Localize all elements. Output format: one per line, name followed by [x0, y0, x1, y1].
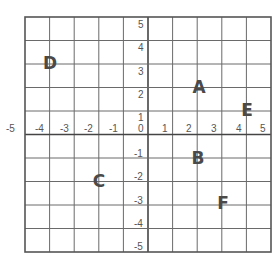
x-tick: -1 — [109, 124, 118, 134]
y-tick: 3 — [138, 67, 144, 77]
point-d: D — [43, 55, 57, 72]
point-e: E — [241, 102, 253, 119]
y-tick: -3 — [134, 196, 143, 206]
point-b: B — [192, 150, 205, 167]
x-tick: 2 — [186, 124, 192, 134]
x-tick: -2 — [84, 124, 93, 134]
point-a: A — [192, 79, 205, 96]
y-tick: 2 — [138, 90, 144, 100]
x-tick: 5 — [260, 124, 266, 134]
y-tick: -1 — [134, 149, 143, 159]
x-tick: -4 — [35, 124, 44, 134]
x-tick: 0 — [138, 124, 144, 134]
x-tick: 1 — [162, 124, 168, 134]
y-tick: -2 — [134, 172, 143, 182]
x-tick: -3 — [60, 124, 69, 134]
y-tick: 5 — [138, 20, 144, 30]
y-tick: -5 — [134, 242, 143, 252]
y-tick: 1 — [138, 113, 144, 123]
y-tick: -4 — [134, 219, 143, 229]
x-tick: -5 — [6, 124, 15, 134]
x-tick: 4 — [236, 124, 242, 134]
point-c: C — [93, 173, 105, 190]
y-tick: 4 — [138, 43, 144, 53]
x-tick: 3 — [211, 124, 217, 134]
point-f: F — [217, 195, 229, 212]
